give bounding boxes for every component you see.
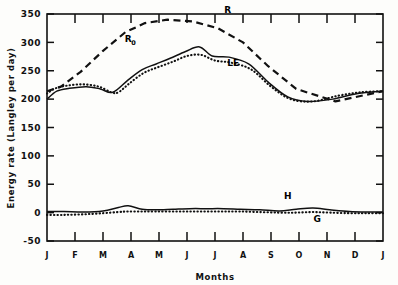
y-tick-label: 250 (21, 66, 41, 76)
x-tick-label-a-7: A (240, 251, 247, 260)
y-tick-label: 200 (21, 94, 41, 104)
x-tick-label-o-9: O (296, 251, 303, 260)
chart-background (0, 0, 398, 285)
x-tick-label-m-2: M (99, 251, 107, 260)
curve-label-r: R (224, 5, 231, 15)
y-tick-label: 50 (27, 179, 41, 189)
y-axis-title: Energy rate (Langley per day) (6, 48, 16, 209)
y-tick-label: 300 (21, 38, 41, 48)
x-tick-label-a-3: A (128, 251, 135, 260)
x-axis-title: Months (195, 272, 234, 282)
y-tick-label: 150 (21, 123, 41, 133)
x-tick-label-d-11: D (352, 251, 359, 260)
x-tick-label-s-8: S (268, 251, 274, 260)
x-tick-label-j-0: J (45, 251, 49, 260)
x-tick-label-j-6: J (213, 251, 217, 260)
x-tick-label-n-10: N (324, 251, 331, 260)
x-tick-label-j-5: J (185, 251, 189, 260)
x-tick-label-f-1: F (72, 251, 77, 260)
curve-label-h: H (284, 191, 292, 201)
curve-label-g: G (314, 214, 321, 224)
y-tick-label: 100 (21, 151, 41, 161)
chart-figure: -50050100150200250300350 JFMAMJJASONDJ R… (0, 0, 398, 285)
y-tick-label: 350 (21, 9, 41, 19)
curve-label-le: LE (227, 58, 239, 68)
y-tick-label: 0 (34, 208, 41, 218)
x-tick-label-j-12: J (381, 251, 385, 260)
curve-sublabel-r0: 0 (131, 39, 136, 47)
x-tick-label-m-4: M (155, 251, 163, 260)
y-tick-label: -50 (23, 236, 41, 246)
energy-rate-line-chart: -50050100150200250300350 JFMAMJJASONDJ R… (0, 0, 398, 285)
